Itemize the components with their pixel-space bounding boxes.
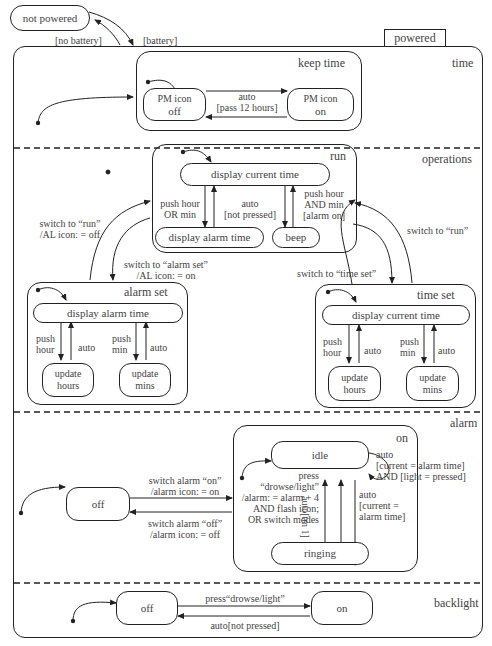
ts-update-hours-1: update	[341, 372, 368, 384]
state-time-set-display[interactable]: display current time	[322, 305, 470, 325]
time-set-push-min: push min	[400, 336, 419, 358]
alarm-set-auto-hour: auto	[78, 342, 95, 353]
alarm-set-push-min: push min	[112, 333, 131, 355]
push-or-label-1: push hour	[157, 198, 203, 209]
transition-to-time-set: switch to “time set”	[297, 268, 376, 279]
transition-pass-12-hours: auto [pass 12 hours]	[210, 91, 284, 113]
as-update-mins-1: update	[132, 368, 159, 380]
region-label-backlight: backlight	[434, 596, 479, 611]
transition-battery: [battery]	[143, 35, 177, 46]
as-update-mins-2: mins	[135, 380, 154, 392]
pm-off-label-2: off	[168, 105, 181, 118]
state-pm-icon-off[interactable]: PM icon off	[143, 88, 206, 121]
state-time-set-update-mins[interactable]: update mins	[406, 366, 459, 401]
push-and-label-3: [alarm on]	[297, 210, 351, 221]
transition-auto-tm: auto[tm 1]	[300, 496, 311, 538]
transition-to-alarm-set: switch to “alarm set” /AL icon: = on	[118, 259, 214, 281]
state-alarm-set-display[interactable]: display alarm time	[33, 303, 183, 323]
transition-not-pressed: auto [not pressed]	[217, 198, 283, 220]
state-backlight-on[interactable]: on	[311, 591, 373, 625]
ring-label-2: [current =	[359, 500, 405, 511]
state-time-set-update-hours[interactable]: update hours	[328, 366, 381, 401]
transition-no-battery: [no battery]	[55, 35, 102, 46]
push-or-label-2: OR min	[157, 209, 203, 220]
as-push-min-1: push	[112, 333, 131, 344]
transition-to-run-left: switch to “run” /AL icon: = off	[30, 218, 110, 240]
alarm-set-auto-min: auto	[150, 342, 167, 353]
transition-auto-not-pressed-backlight: auto[not pressed]	[190, 620, 300, 631]
alarm-on-title: on	[396, 431, 408, 446]
alarm-set-push-hour: push hour	[36, 333, 55, 355]
time-set-auto-hour: auto	[364, 345, 381, 356]
switch-on-label-2: /alarm icon: = on	[140, 486, 230, 497]
state-display-alarm-time[interactable]: display alarm time	[155, 227, 264, 248]
as-push-hour-2: hour	[36, 344, 55, 355]
state-pm-icon-on[interactable]: PM icon on	[287, 88, 354, 121]
as-update-hours-2: hours	[57, 380, 79, 392]
to-alarm-set-label-1: switch to “alarm set”	[118, 259, 214, 270]
state-idle[interactable]: idle	[271, 441, 369, 469]
pm-on-label-2: on	[315, 105, 326, 118]
not-pressed-label-2: [not pressed]	[217, 209, 283, 220]
as-update-hours-1: update	[55, 368, 82, 380]
transition-idle-self: auto [current = alarm time] AND [light =…	[376, 449, 466, 482]
region-label-alarm: alarm	[450, 416, 477, 431]
pass-12-label-2: [pass 12 hours]	[210, 102, 284, 113]
transition-to-ringing: auto [current = alarm time]	[359, 489, 405, 522]
transition-switch-alarm-off: switch alarm “off” /alarm icon: = off	[140, 518, 230, 540]
state-alarm-set-update-hours[interactable]: update hours	[42, 363, 94, 397]
region-label-operations: operations	[422, 152, 472, 167]
state-display-current-time[interactable]: display current time	[180, 163, 330, 186]
push-and-label-2: AND min	[297, 199, 351, 210]
as-push-min-2: min	[112, 344, 131, 355]
ts-update-mins-2: mins	[423, 384, 442, 396]
state-ringing[interactable]: ringing	[271, 542, 369, 565]
self-label-2: [current = alarm time]	[376, 460, 466, 471]
state-beep[interactable]: beep	[272, 227, 320, 248]
to-alarm-set-label-2: /AL icon: = on	[118, 270, 214, 281]
keep-time-title: keep time	[298, 56, 345, 71]
region-label-time: time	[452, 56, 473, 71]
run-title: run	[330, 149, 346, 164]
as-push-hour-1: push	[36, 333, 55, 344]
time-set-auto-min: auto	[438, 345, 455, 356]
switch-on-label-1: switch alarm “on”	[140, 475, 230, 486]
self-label-3: AND [light = pressed]	[376, 471, 466, 482]
pm-on-label-1: PM icon	[303, 92, 337, 105]
state-backlight-off[interactable]: off	[116, 591, 178, 625]
ts-push-min-2: min	[400, 347, 419, 358]
pass-12-label-1: auto	[210, 91, 284, 102]
pm-off-label-1: PM icon	[157, 92, 191, 105]
transition-to-run-right: switch to “run”	[407, 225, 468, 236]
powered-tab: powered	[384, 29, 446, 47]
press-label-1: press	[231, 470, 319, 481]
ts-update-mins-1: update	[419, 372, 446, 384]
press-label-2: “drowse/light”	[231, 481, 319, 492]
time-set-title: time set	[417, 288, 455, 303]
not-pressed-label-1: auto	[217, 198, 283, 209]
alarm-set-title: alarm set	[124, 285, 168, 300]
to-run-left-label-1: switch to “run”	[30, 218, 110, 229]
switch-off-label-1: switch alarm “off”	[140, 518, 230, 529]
ring-label-3: alarm time]	[359, 511, 405, 522]
self-label-1: auto	[376, 449, 466, 460]
transition-switch-alarm-on: switch alarm “on” /alarm icon: = on	[140, 475, 230, 497]
push-and-label-1: push hour	[297, 188, 351, 199]
state-alarm-set-update-mins[interactable]: update mins	[119, 363, 171, 397]
transition-push-hour-or-min: push hour OR min	[157, 198, 203, 220]
ring-label-1: auto	[359, 489, 405, 500]
state-not-powered[interactable]: not powered	[10, 5, 90, 31]
state-alarm-off[interactable]: off	[66, 487, 130, 521]
time-set-push-hour: push hour	[323, 336, 342, 358]
ts-update-hours-2: hours	[343, 384, 365, 396]
ts-push-hour-2: hour	[323, 347, 342, 358]
ts-push-hour-1: push	[323, 336, 342, 347]
switch-off-label-2: /alarm icon: = off	[140, 529, 230, 540]
transition-press-drowse-light-backlight: press“drowse/light”	[190, 593, 300, 604]
transition-push-hour-and-min: push hour AND min [alarm on]	[297, 188, 351, 221]
to-run-left-label-2: /AL icon: = off	[30, 229, 110, 240]
ts-push-min-1: push	[400, 336, 419, 347]
